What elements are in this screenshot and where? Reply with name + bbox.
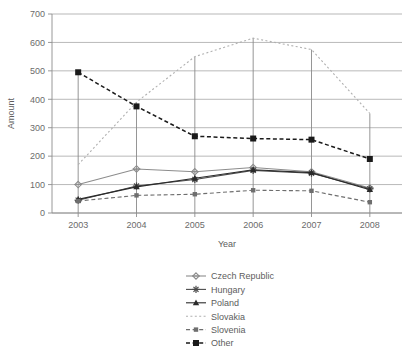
legend-item[interactable]: Slovakia bbox=[186, 312, 245, 322]
legend-label: Slovenia bbox=[211, 325, 246, 335]
bold-square-marker bbox=[367, 156, 373, 162]
line-chart: 0100200300400500600700200320042005200620… bbox=[0, 0, 418, 352]
bold-square-marker bbox=[192, 133, 198, 139]
y-tick-label: 100 bbox=[30, 180, 45, 190]
y-axis: 0100200300400500600700 bbox=[30, 9, 52, 218]
legend: Czech RepublicHungaryPolandSlovakiaSlove… bbox=[186, 271, 275, 348]
legend-label: Poland bbox=[211, 298, 239, 308]
bold-square-marker bbox=[309, 137, 315, 143]
small-square-marker bbox=[251, 188, 255, 192]
x-tick-label: 2006 bbox=[243, 220, 263, 230]
y-tick-label: 500 bbox=[30, 66, 45, 76]
bold-square-marker bbox=[75, 69, 81, 75]
legend-item[interactable]: Slovenia bbox=[186, 325, 246, 335]
small-square-marker bbox=[368, 200, 372, 204]
y-axis-title: Amount bbox=[6, 97, 16, 129]
legend-item[interactable]: Czech Republic bbox=[186, 271, 275, 281]
x-axis: 200320042005200620072008 bbox=[52, 213, 402, 230]
legend-label: Other bbox=[211, 338, 234, 348]
legend-label: Slovakia bbox=[211, 312, 245, 322]
series-hungary bbox=[75, 167, 374, 204]
series-line bbox=[78, 170, 370, 200]
series-other bbox=[75, 69, 373, 162]
small-square-marker bbox=[134, 193, 138, 197]
chart-canvas: 0100200300400500600700200320042005200620… bbox=[0, 0, 418, 352]
y-tick-label: 400 bbox=[30, 95, 45, 105]
y-tick-label: 700 bbox=[30, 9, 45, 19]
category-vertical-lines bbox=[78, 38, 370, 213]
x-tick-label: 2005 bbox=[185, 220, 205, 230]
small-square-marker bbox=[193, 192, 197, 196]
y-tick-label: 300 bbox=[30, 123, 45, 133]
legend-item[interactable]: Other bbox=[186, 338, 234, 348]
legend-item[interactable]: Poland bbox=[186, 298, 239, 308]
series-line bbox=[78, 38, 370, 165]
bold-square-marker bbox=[193, 340, 199, 346]
x-tick-label: 2004 bbox=[126, 220, 146, 230]
x-tick-label: 2003 bbox=[68, 220, 88, 230]
legend-label: Czech Republic bbox=[211, 271, 275, 281]
series-line bbox=[78, 190, 370, 202]
x-axis-title: Year bbox=[218, 239, 236, 249]
y-tick-label: 200 bbox=[30, 151, 45, 161]
series-line bbox=[78, 72, 370, 159]
x-tick-label: 2008 bbox=[360, 220, 380, 230]
legend-label: Hungary bbox=[211, 285, 246, 295]
legend-item[interactable]: Hungary bbox=[186, 285, 246, 295]
series-slovakia bbox=[78, 38, 370, 165]
x-tick-label: 2007 bbox=[301, 220, 321, 230]
y-tick-label: 0 bbox=[40, 208, 45, 218]
small-square-marker bbox=[194, 327, 198, 331]
y-tick-label: 600 bbox=[30, 38, 45, 48]
bold-square-marker bbox=[250, 136, 256, 142]
small-square-marker bbox=[309, 189, 313, 193]
bold-square-marker bbox=[134, 103, 140, 109]
small-square-marker bbox=[76, 199, 80, 203]
